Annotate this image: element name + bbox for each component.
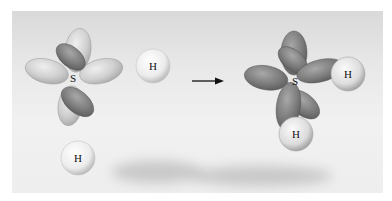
hydrogen-atom-left-2: H — [61, 141, 95, 175]
h2s-molecule-right: S — [242, 31, 346, 132]
hydrogen-label: H — [149, 60, 157, 72]
sulfur-orbitals-left: S — [23, 27, 126, 128]
sulfur-label-right: S — [292, 75, 298, 87]
sulfur-label-left: S — [70, 72, 76, 84]
hydrogen-atom-left-1: H — [136, 49, 170, 83]
hydrogen-label: H — [74, 152, 82, 164]
hydrogen-label: H — [344, 68, 352, 80]
hydrogen-label: H — [292, 128, 300, 140]
hydrogen-atom-right-2: H — [279, 117, 313, 151]
reaction-arrow-icon — [192, 78, 224, 85]
hydrogen-atom-right-1: H — [331, 57, 365, 91]
orbital-diagram: S H H S H H — [0, 0, 392, 201]
